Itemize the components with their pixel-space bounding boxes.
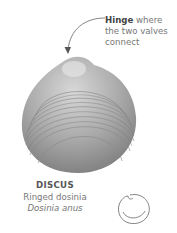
callout-text-1: where bbox=[133, 15, 162, 25]
callout-arrow-icon bbox=[60, 14, 110, 59]
callout-text-3: connect bbox=[105, 37, 168, 48]
clam-shell-illustration bbox=[16, 55, 146, 177]
specimen-label: DISCUS Ringed dosinia Dosinia anus bbox=[0, 180, 110, 215]
shell-outline-icon bbox=[116, 192, 152, 226]
family-name: DISCUS bbox=[0, 180, 110, 192]
common-name: Ringed dosinia bbox=[0, 192, 110, 204]
hinge-callout: Hinge where the two valves connect bbox=[105, 15, 168, 48]
callout-text-2: the two valves bbox=[105, 26, 168, 37]
latin-name: Dosinia anus bbox=[0, 203, 110, 215]
